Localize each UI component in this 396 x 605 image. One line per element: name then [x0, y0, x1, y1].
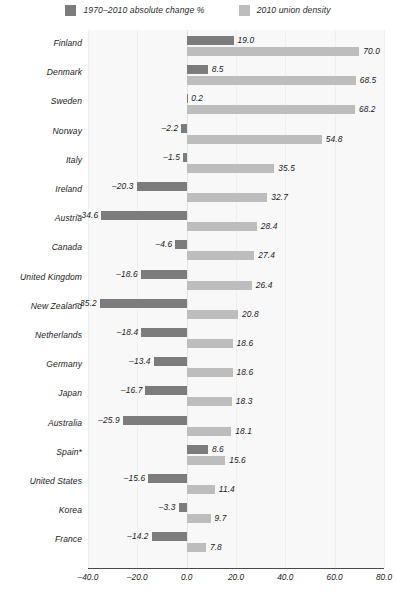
bar-change [187, 445, 208, 454]
chart-row: Norway–2.254.8 [0, 120, 396, 148]
union-density-chart: 1970–2010 absolute change % 2010 union d… [0, 0, 396, 605]
bar-change [123, 416, 187, 425]
x-tick-label: 40.0 [277, 572, 293, 582]
value-label-density: 11.4 [219, 484, 235, 495]
bar-change [154, 357, 187, 366]
country-label: Denmark [0, 67, 82, 77]
bar-density [187, 368, 233, 377]
bar-density [187, 76, 356, 85]
value-label-change: 19.0 [238, 35, 255, 46]
bar-change [181, 124, 186, 133]
value-label-change: –18.4 [117, 327, 138, 338]
x-tick-label: 20.0 [228, 572, 244, 582]
value-label-density: 18.1 [235, 426, 252, 437]
bar-change [141, 270, 187, 279]
bar-density [187, 339, 233, 348]
value-label-change: –25.9 [98, 415, 119, 426]
bar-density [187, 397, 232, 406]
x-tick-label: –40.0 [78, 572, 99, 582]
bar-density [187, 310, 238, 319]
value-label-change: 8.5 [212, 64, 224, 75]
chart-row: New Zealand–35.220.8 [0, 295, 396, 323]
value-label-density: 70.0 [363, 46, 380, 57]
value-label-change: –3.3 [159, 502, 176, 513]
chart-row: France–14.27.8 [0, 528, 396, 556]
country-label: France [0, 534, 82, 544]
bar-density [187, 281, 252, 290]
value-label-density: 18.6 [237, 367, 254, 378]
bar-density [187, 193, 268, 202]
value-label-change: –13.4 [129, 356, 150, 367]
country-label: Korea [0, 505, 82, 515]
chart-row: Ireland–20.332.7 [0, 178, 396, 206]
value-label-change: 0.2 [191, 93, 203, 104]
chart-row: United Kingdom–18.626.4 [0, 266, 396, 294]
chart-row: Finland19.070.0 [0, 32, 396, 60]
chart-row: Sweden0.268.2 [0, 90, 396, 118]
bar-density [187, 47, 360, 56]
x-tick-label: 0.0 [181, 572, 193, 582]
country-label: Italy [0, 155, 82, 165]
country-label: Finland [0, 38, 82, 48]
chart-row: Germany–13.418.6 [0, 353, 396, 381]
value-label-change: –2.2 [162, 123, 179, 134]
value-label-density: 18.6 [237, 338, 254, 349]
value-label-change: –14.2 [127, 531, 148, 542]
x-axis-ticks: –40.0–20.00.020.040.060.080.0 [0, 572, 396, 588]
chart-row: United States–15.611.4 [0, 470, 396, 498]
bar-density [187, 485, 215, 494]
chart-row: Canada–4.627.4 [0, 236, 396, 264]
value-label-change: –34.6 [77, 210, 98, 221]
x-axis-line [88, 568, 384, 569]
value-label-change: –20.3 [112, 181, 133, 192]
country-label: Japan [0, 388, 82, 398]
chart-row: Spain*8.615.6 [0, 441, 396, 469]
bar-change [152, 532, 187, 541]
x-tick-label: 60.0 [327, 572, 343, 582]
value-label-density: 28.4 [261, 221, 278, 232]
bar-density [187, 456, 225, 465]
chart-row: Korea–3.39.7 [0, 499, 396, 527]
bar-change [187, 36, 234, 45]
value-label-change: –16.7 [121, 385, 142, 396]
country-label: United States [0, 476, 82, 486]
bar-density [187, 135, 322, 144]
country-label: Netherlands [0, 330, 82, 340]
chart-row: Austria–34.628.4 [0, 207, 396, 235]
value-label-change: –15.6 [124, 473, 145, 484]
value-label-density: 26.4 [256, 280, 273, 291]
chart-row: Italy–1.535.5 [0, 149, 396, 177]
value-label-change: –4.6 [156, 239, 173, 250]
value-label-density: 68.2 [359, 104, 376, 115]
country-label: United Kingdom [0, 272, 82, 282]
bar-change [187, 65, 208, 74]
bar-density [187, 427, 232, 436]
bar-change [101, 211, 186, 220]
value-label-density: 68.5 [360, 75, 377, 86]
country-label: Germany [0, 359, 82, 369]
country-label: Austria [0, 213, 82, 223]
bar-density [187, 543, 206, 552]
value-label-density: 32.7 [271, 192, 288, 203]
bar-change [145, 386, 186, 395]
value-label-density: 15.6 [229, 455, 246, 466]
value-label-change: –35.2 [75, 298, 96, 309]
bar-density [187, 105, 355, 114]
chart-row: Denmark8.568.5 [0, 61, 396, 89]
bar-density [187, 251, 255, 260]
value-label-change: –1.5 [163, 152, 180, 163]
country-label: New Zealand [0, 301, 82, 311]
value-label-density: 7.8 [210, 542, 222, 553]
x-tick-label: –20.0 [127, 572, 148, 582]
value-label-change: 8.6 [212, 444, 224, 455]
bar-change [175, 240, 186, 249]
country-label: Norway [0, 126, 82, 136]
bar-change [179, 503, 187, 512]
bar-change [148, 474, 186, 483]
bar-density [187, 164, 275, 173]
country-label: Canada [0, 242, 82, 252]
bar-change [100, 299, 187, 308]
country-label: Ireland [0, 184, 82, 194]
bar-density [187, 222, 257, 231]
x-tick-label: 80.0 [376, 572, 392, 582]
